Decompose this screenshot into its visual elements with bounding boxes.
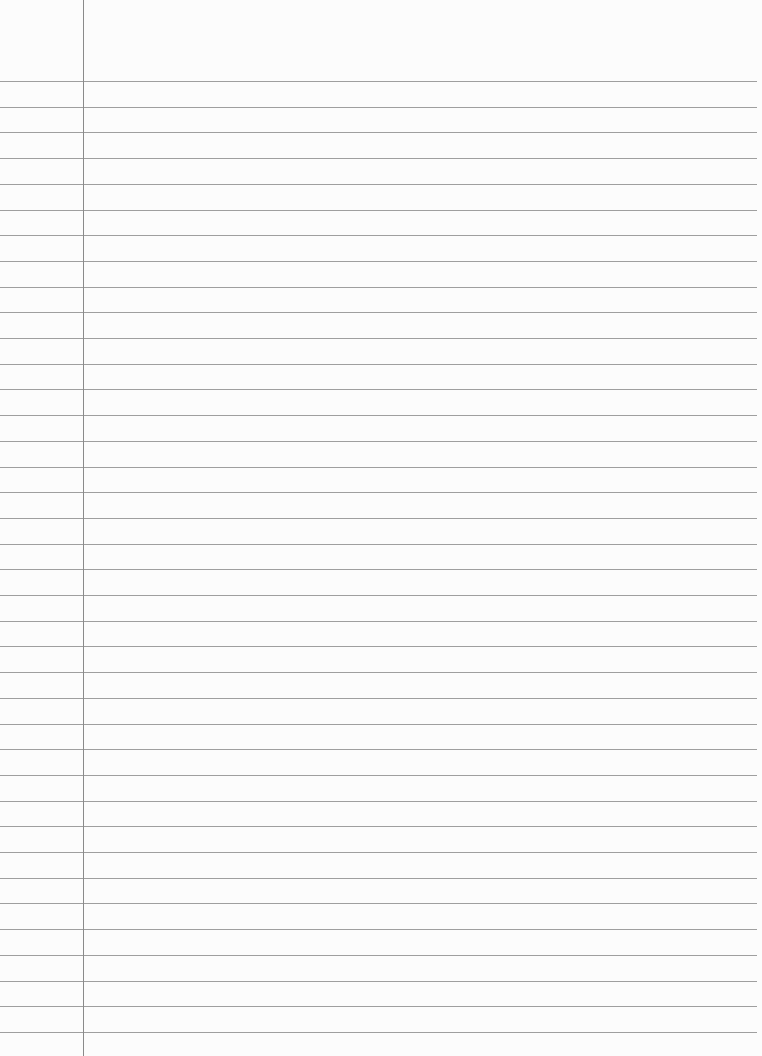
ruled-line bbox=[0, 467, 757, 468]
ruled-line bbox=[0, 415, 757, 416]
ruled-line bbox=[0, 595, 757, 596]
ruled-line bbox=[0, 826, 757, 827]
ruled-line bbox=[0, 544, 757, 545]
ruled-line bbox=[0, 338, 757, 339]
ruled-line bbox=[0, 955, 757, 956]
ruled-line bbox=[0, 364, 757, 365]
ruled-line bbox=[0, 492, 757, 493]
ruled-line bbox=[0, 235, 757, 236]
ruled-line bbox=[0, 646, 757, 647]
ruled-line bbox=[0, 184, 757, 185]
ruled-line bbox=[0, 801, 757, 802]
ruled-line bbox=[0, 621, 757, 622]
ruled-line bbox=[0, 698, 757, 699]
ruled-line bbox=[0, 518, 757, 519]
ruled-line bbox=[0, 852, 757, 853]
ruled-line bbox=[0, 775, 757, 776]
ruled-line bbox=[0, 878, 757, 879]
ruled-line bbox=[0, 569, 757, 570]
margin-line bbox=[83, 0, 84, 1056]
ruled-line bbox=[0, 261, 757, 262]
ruled-line bbox=[0, 1032, 757, 1033]
ruled-line bbox=[0, 1006, 757, 1007]
ruled-line bbox=[0, 158, 757, 159]
ruled-line bbox=[0, 929, 757, 930]
ruled-line bbox=[0, 389, 757, 390]
ruled-line bbox=[0, 287, 757, 288]
ruled-line bbox=[0, 132, 757, 133]
ruled-line bbox=[0, 672, 757, 673]
ruled-line bbox=[0, 210, 757, 211]
ruled-line bbox=[0, 749, 757, 750]
ruled-line bbox=[0, 724, 757, 725]
ruled-line bbox=[0, 441, 757, 442]
ruled-line bbox=[0, 312, 757, 313]
ruled-line bbox=[0, 903, 757, 904]
lined-paper-sheet bbox=[0, 0, 762, 1056]
ruled-line bbox=[0, 107, 757, 108]
ruled-line bbox=[0, 81, 757, 82]
ruled-line bbox=[0, 981, 757, 982]
